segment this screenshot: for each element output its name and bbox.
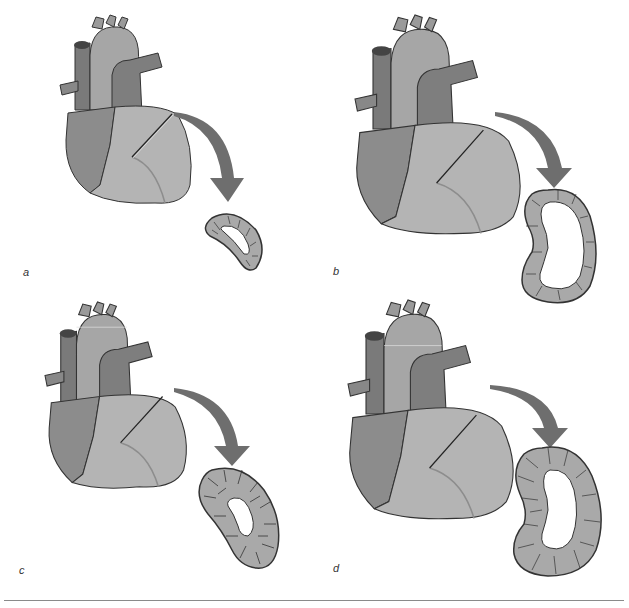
heart-illustration-dilated [310, 0, 629, 300]
panel-label-a: a [23, 266, 29, 278]
panel-label-d: d [333, 562, 339, 574]
panel-a: a [0, 0, 310, 300]
cross-section-dilated-hypertrophic [514, 447, 601, 576]
heart-illustration-normal [0, 0, 310, 300]
panel-label-c: c [19, 564, 25, 576]
superior-vena-cava [75, 43, 90, 110]
cross-section-normal [205, 214, 262, 270]
cross-section-hypertrophic [199, 468, 279, 568]
bottom-divider [4, 600, 624, 601]
heart-illustration-dilated-hypertrophic [310, 300, 629, 600]
panel-label-b: b [333, 265, 339, 277]
heart-illustration-hypertrophic [0, 300, 310, 600]
panel-d: d [310, 300, 629, 600]
panel-c: c [0, 300, 310, 600]
cross-section-dilated [522, 190, 596, 303]
panel-b: b [310, 0, 629, 300]
